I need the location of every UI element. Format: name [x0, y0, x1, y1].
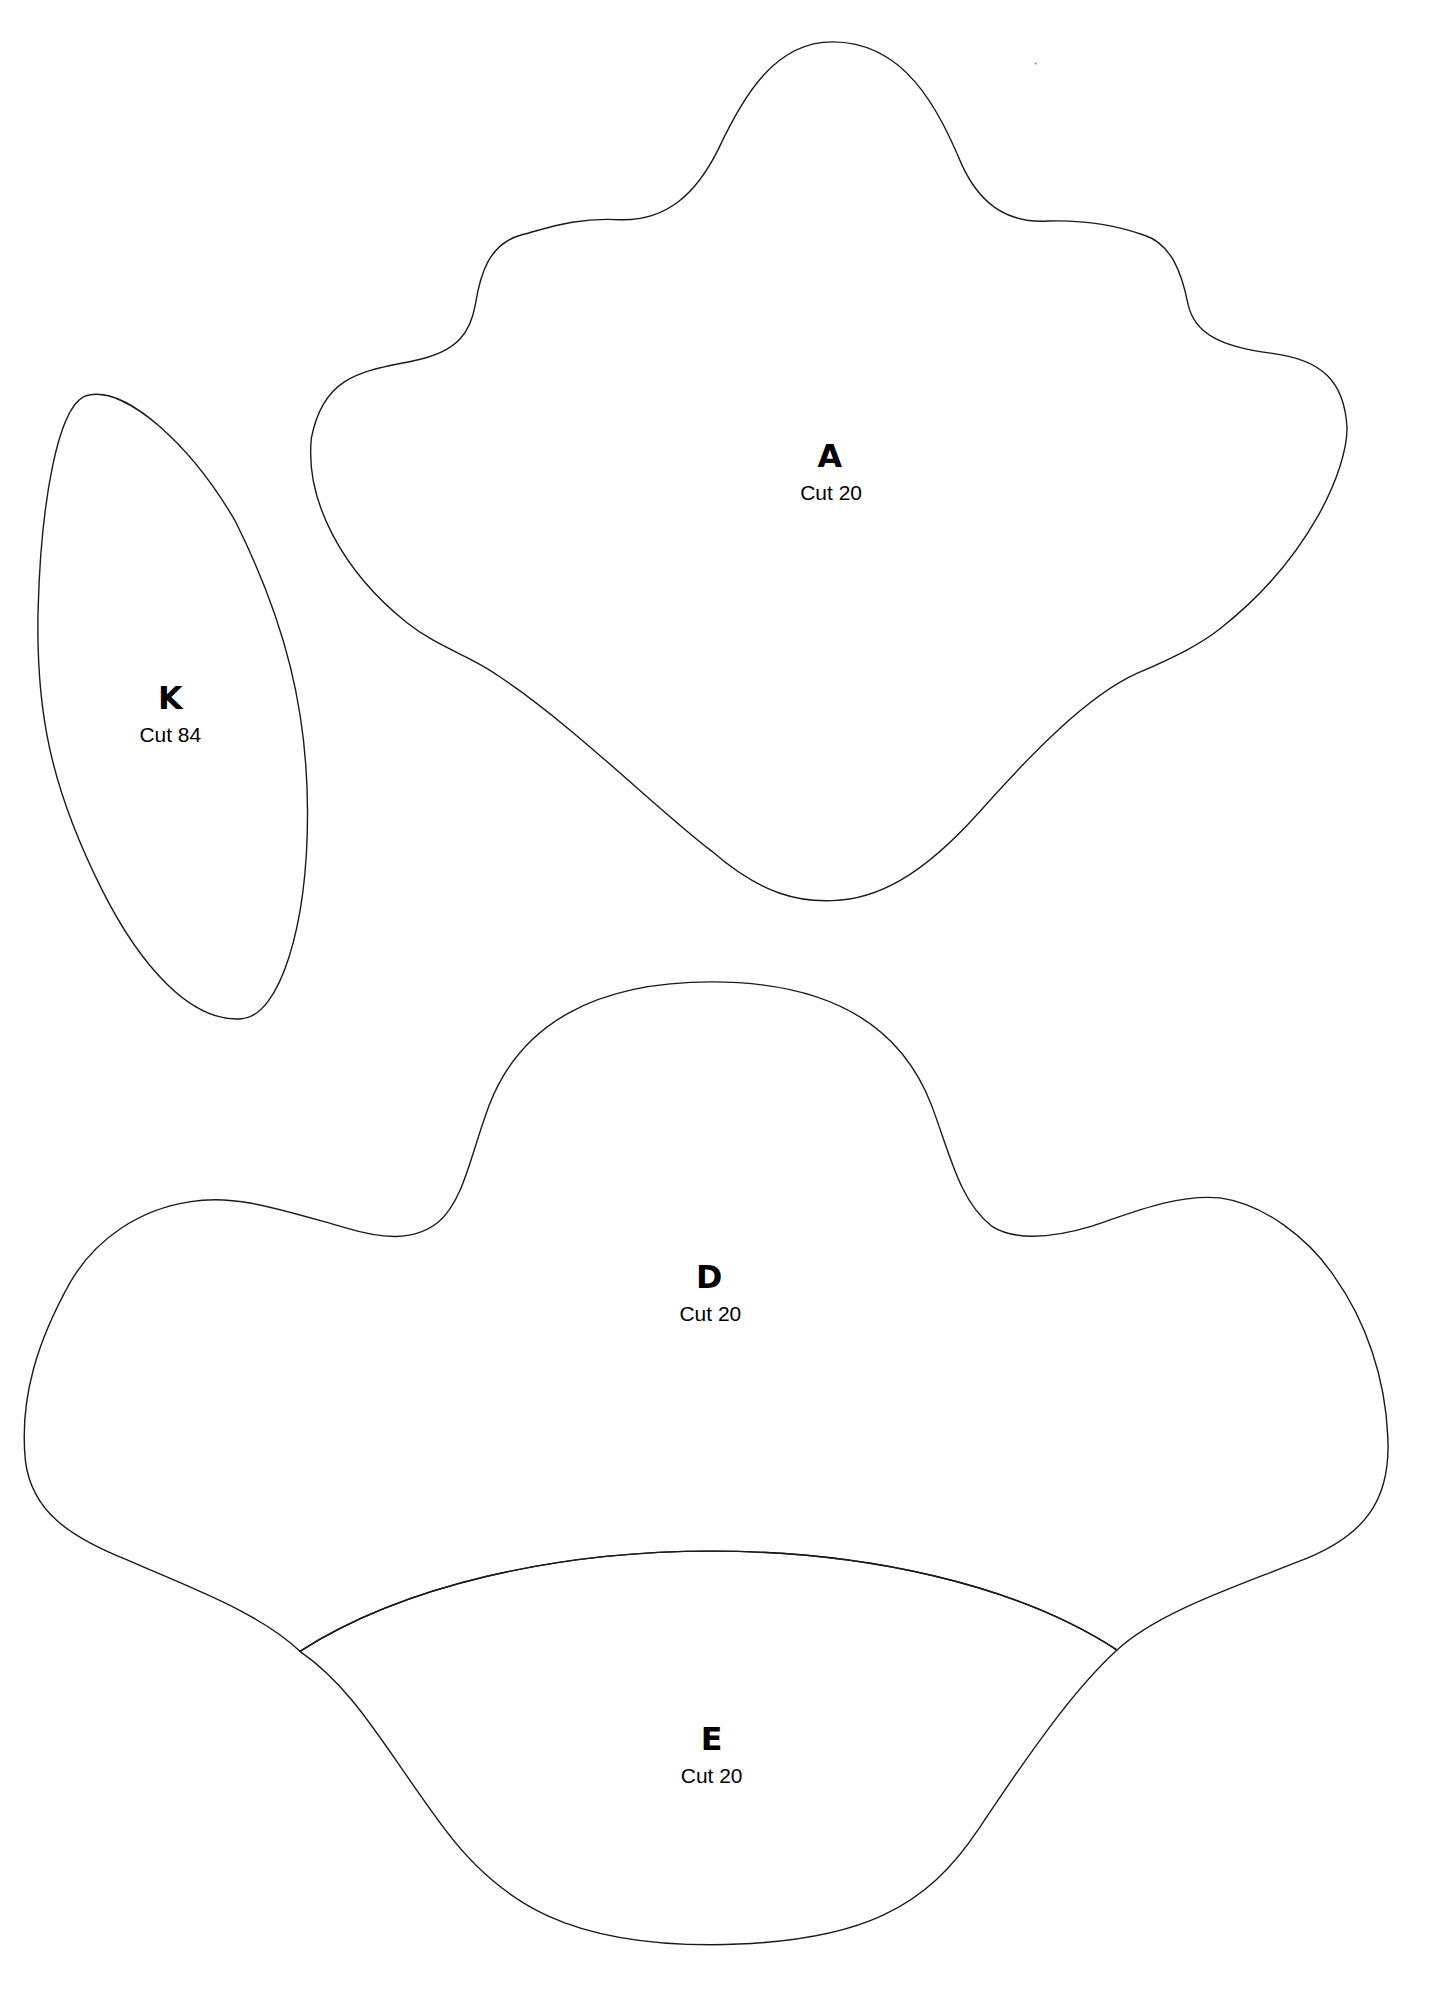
- piece-d-cut-count: Cut 20: [680, 1302, 742, 1325]
- scan-speck: [1035, 62, 1037, 64]
- piece-k-letter: K: [158, 680, 184, 716]
- pattern-piece-a: A Cut 20: [311, 42, 1347, 901]
- pattern-piece-e: E Cut 20: [300, 1551, 1117, 1945]
- pattern-piece-k: K Cut 84: [38, 394, 308, 1019]
- piece-d-letter: D: [696, 1259, 722, 1295]
- piece-a-letter: A: [818, 438, 843, 474]
- pattern-sheet: A Cut 20 K Cut 84 D Cut 20 E Cut 20: [0, 0, 1436, 2007]
- piece-e-letter: E: [701, 1721, 723, 1757]
- piece-e-cut-count: Cut 20: [681, 1764, 743, 1787]
- piece-a-cut-count: Cut 20: [800, 481, 862, 504]
- piece-k-cut-count: Cut 84: [139, 723, 201, 746]
